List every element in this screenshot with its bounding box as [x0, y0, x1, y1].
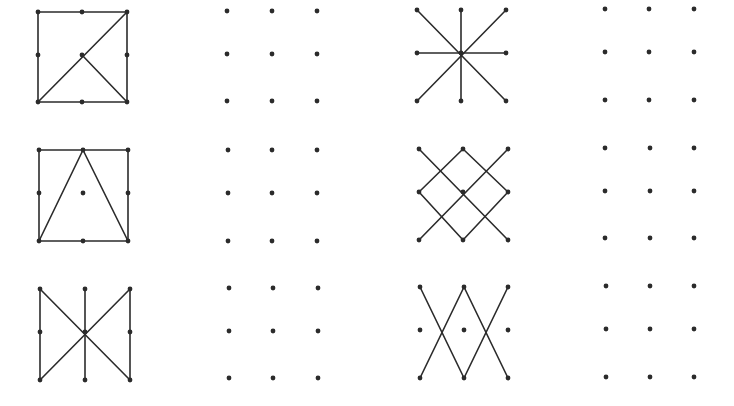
grid-dot — [459, 51, 464, 56]
grid-dot — [227, 329, 232, 334]
grid-dot — [36, 100, 41, 105]
grid-dot — [461, 147, 466, 152]
grid-dot — [648, 236, 653, 241]
grid-dot — [603, 189, 608, 194]
edge-line — [82, 55, 127, 102]
grid-dot — [647, 98, 652, 103]
figure-b — [37, 148, 131, 244]
edge-line — [83, 150, 128, 241]
grid-dot — [227, 376, 232, 381]
grid-dot — [603, 50, 608, 55]
grid-dot — [36, 53, 41, 58]
grid-dot — [38, 287, 43, 292]
grid-dot — [126, 148, 131, 153]
blank-grid-k — [603, 146, 697, 241]
grid-dot — [37, 239, 42, 244]
grid-dot — [315, 99, 320, 104]
grid-dot — [270, 52, 275, 57]
grid-dot — [81, 191, 86, 196]
grid-dot — [461, 190, 466, 195]
grid-dot — [648, 189, 653, 194]
grid-dot — [315, 9, 320, 14]
grid-dot — [603, 7, 608, 12]
grid-dot — [604, 327, 609, 332]
blank-grid-j — [603, 7, 697, 103]
grid-dot — [80, 53, 85, 58]
grid-dot — [271, 329, 276, 334]
grid-dot — [692, 98, 697, 103]
grid-dot — [125, 100, 130, 105]
grid-dot — [125, 10, 130, 15]
grid-dot — [417, 238, 422, 243]
grid-dot — [271, 376, 276, 381]
grid-dot — [80, 100, 85, 105]
grid-dot — [506, 238, 511, 243]
grid-dot — [271, 286, 276, 291]
grid-dot — [459, 99, 464, 104]
grid-dot — [692, 327, 697, 332]
grid-dot — [692, 284, 697, 289]
grid-dot — [415, 51, 420, 56]
grid-dot — [462, 328, 467, 333]
grid-dot — [270, 148, 275, 153]
edge-line — [39, 150, 83, 241]
grid-dot — [418, 376, 423, 381]
grid-dot — [415, 8, 420, 13]
grid-dot — [418, 285, 423, 290]
grid-dot — [83, 287, 88, 292]
grid-dot — [128, 330, 133, 335]
grid-dot — [506, 285, 511, 290]
grid-dot — [506, 328, 511, 333]
grid-dot — [83, 378, 88, 383]
grid-dot — [128, 287, 133, 292]
figure-a — [36, 10, 130, 105]
grid-dot — [36, 10, 41, 15]
figure-g — [415, 8, 509, 104]
grid-dot — [692, 146, 697, 151]
grid-dot — [648, 375, 653, 380]
grid-dot — [648, 146, 653, 151]
grid-dot — [504, 99, 509, 104]
figure-i — [418, 285, 511, 381]
grid-dot — [692, 189, 697, 194]
grid-dot — [648, 284, 653, 289]
dot-grid-puzzle-sheet — [0, 0, 734, 406]
grid-dot — [603, 98, 608, 103]
grid-dot — [316, 329, 321, 334]
grid-dot — [506, 376, 511, 381]
blank-grid-l — [604, 284, 697, 380]
grid-dot — [461, 238, 466, 243]
blank-grid-e — [226, 148, 320, 244]
grid-dot — [227, 286, 232, 291]
grid-dot — [504, 8, 509, 13]
grid-dot — [128, 378, 133, 383]
grid-dot — [462, 376, 467, 381]
grid-dot — [270, 239, 275, 244]
grid-dot — [417, 147, 422, 152]
grid-dot — [692, 236, 697, 241]
grid-dot — [226, 191, 231, 196]
figure-c — [38, 287, 133, 383]
grid-dot — [647, 50, 652, 55]
grid-dot — [315, 239, 320, 244]
grid-dot — [80, 10, 85, 15]
grid-dot — [270, 9, 275, 14]
grid-dot — [603, 236, 608, 241]
grid-dot — [225, 52, 230, 57]
blank-grid-f — [227, 286, 321, 381]
grid-dot — [38, 330, 43, 335]
grid-dot — [81, 148, 86, 153]
grid-dot — [226, 239, 231, 244]
grid-dot — [647, 7, 652, 12]
grid-dot — [225, 9, 230, 14]
grid-dot — [126, 239, 131, 244]
grid-dot — [126, 191, 131, 196]
grid-dot — [315, 148, 320, 153]
grid-dot — [415, 99, 420, 104]
grid-dot — [504, 51, 509, 56]
grid-dot — [506, 190, 511, 195]
grid-dot — [417, 190, 422, 195]
blank-grid-d — [225, 9, 320, 104]
grid-dot — [38, 378, 43, 383]
grid-dot — [226, 148, 231, 153]
